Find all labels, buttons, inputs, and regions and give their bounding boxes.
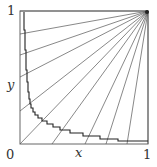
diagram-canvas [0, 0, 157, 167]
origin-label: 0 [6, 148, 14, 161]
curve [24, 12, 148, 141]
ray-origin-point [145, 10, 149, 14]
x-axis-label: x [75, 146, 82, 159]
x-tick-1: 1 [143, 148, 151, 161]
y-axis-label: y [7, 78, 14, 91]
y-tick-1: 1 [7, 4, 15, 17]
rays [20, 11, 148, 144]
